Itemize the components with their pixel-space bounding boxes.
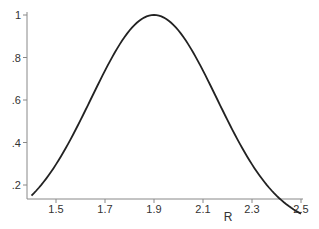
density-curve xyxy=(32,15,302,214)
x-tick-label: 2.1 xyxy=(195,203,210,215)
y-axis: .2.4.6.81 xyxy=(12,9,27,199)
y-tick-label: .8 xyxy=(12,52,21,64)
y-tick-label: .6 xyxy=(12,94,21,106)
x-tick-label: 1.5 xyxy=(48,203,63,215)
x-tick-label: 1.9 xyxy=(146,203,161,215)
y-tick-label: .2 xyxy=(12,179,21,191)
chart: .2.4.6.81 1.51.71.92.12.32.5 R xyxy=(0,0,319,229)
x-axis-title: R xyxy=(224,210,233,224)
x-tick-label: 2.3 xyxy=(244,203,259,215)
x-axis: 1.51.71.92.12.32.5 R xyxy=(27,199,309,224)
y-tick-label: .4 xyxy=(12,137,21,149)
y-tick-label: 1 xyxy=(15,9,21,21)
x-tick-label: 1.7 xyxy=(97,203,112,215)
